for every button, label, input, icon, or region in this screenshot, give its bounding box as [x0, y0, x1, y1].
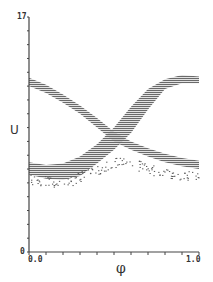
- chart-plot-area: [0, 0, 213, 282]
- y-axis-label: U: [10, 123, 19, 137]
- y-tick-label-top: 17: [17, 12, 27, 21]
- data-bands: [29, 75, 199, 180]
- y-tick-label-bottom: 0: [20, 247, 25, 256]
- x-tick-label-left: 0.0: [28, 255, 42, 264]
- band-descending: [29, 78, 199, 169]
- x-tick-label-right: 1.0: [186, 255, 200, 264]
- x-axis-label: φ: [116, 260, 126, 276]
